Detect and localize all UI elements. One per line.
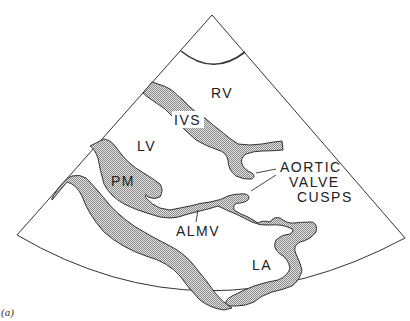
- label-lv: LV: [137, 138, 156, 154]
- label-valve: VALVE: [289, 174, 340, 190]
- label-ivs: IVS: [174, 112, 201, 128]
- aortic-cusp-leader-lower: [251, 175, 276, 191]
- label-rv: RV: [211, 85, 233, 101]
- sector-outline: [17, 15, 405, 291]
- transducer-arc: [181, 51, 245, 64]
- figure-caption-label: (a): [1, 306, 14, 319]
- echo-diagram: RV IVS LV PM AORTIC VALVE CUSPS ALMV LA …: [0, 0, 410, 321]
- label-cusps: CUSPS: [297, 189, 353, 205]
- label-la: LA: [252, 257, 272, 273]
- label-almv: ALMV: [176, 223, 220, 239]
- label-pm: PM: [111, 173, 135, 189]
- aortic-cusp-leader-upper: [256, 169, 276, 173]
- label-aortic: AORTIC: [280, 159, 342, 175]
